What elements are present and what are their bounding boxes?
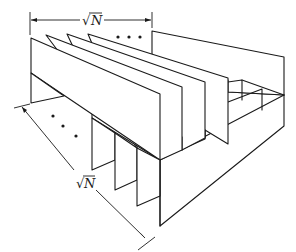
side-dim-variable: N [83, 176, 96, 191]
top-ellipsis [116, 35, 141, 38]
top-dimension: √ N [30, 12, 152, 35]
top-dim-radical: √ [82, 13, 91, 28]
panel-array-diagram: √ N √ N [0, 0, 296, 252]
side-ellipsis [51, 114, 77, 137]
top-dim-variable: N [90, 13, 103, 28]
